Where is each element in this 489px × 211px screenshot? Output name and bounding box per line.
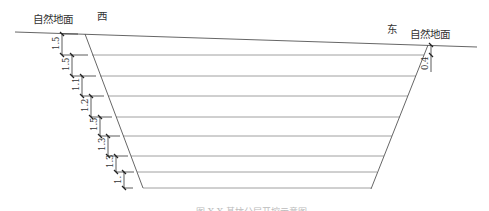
ground-label-west: 自然地面 <box>33 13 73 25</box>
dim-label-east: 0.4 <box>420 56 430 70</box>
layer-lines <box>92 55 424 188</box>
dim-label-5: 1.5 <box>89 117 99 131</box>
dim-label-7: 1.3 <box>105 154 115 168</box>
excavation-section-diagram: 1.5 1.5 1.1 1.2 1.5 1.3 1.3 1. 0.4 自然地面 … <box>0 0 489 211</box>
west-dimension-chain: 1.5 1.5 1.1 1.2 1.5 1.3 1.3 1. <box>51 32 134 190</box>
direction-label-east: 东 <box>387 23 397 35</box>
dim-label-1: 1.5 <box>51 36 61 50</box>
dim-label-8: 1. <box>113 176 123 184</box>
dim-label-6: 1.3 <box>97 137 107 151</box>
dim-label-4: 1.2 <box>80 98 90 112</box>
figure-caption: 图 X-X 基坑分层开挖示意图 <box>196 206 307 211</box>
ground-label-east: 自然地面 <box>410 28 450 40</box>
dim-label-2: 1.5 <box>61 57 71 71</box>
natural-ground-line <box>15 32 477 47</box>
direction-label-west: 西 <box>97 10 107 22</box>
east-dimension: 0.4 <box>420 43 433 72</box>
dim-label-3: 1.1 <box>71 77 81 91</box>
